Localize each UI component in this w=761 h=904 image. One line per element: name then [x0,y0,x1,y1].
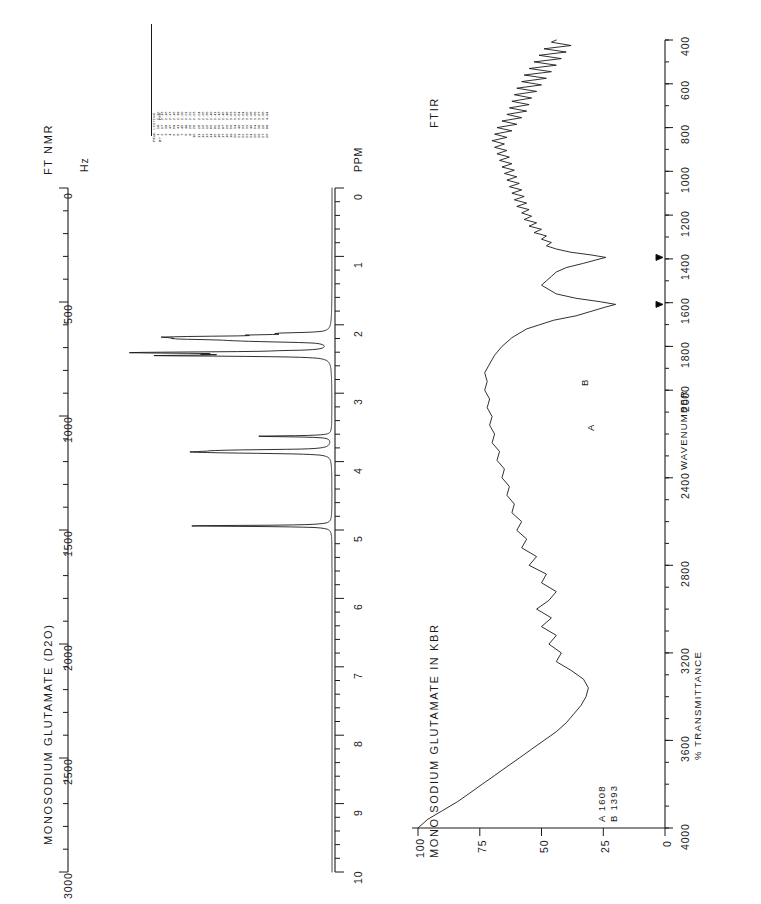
wavenumber-tick-3600: 3600 [679,735,691,762]
wavenumber-tick-400: 400 [679,36,691,56]
ftir-sample-title: MONO SODIUM GLUTAMATE IN KBR [428,624,440,858]
ppm-tick-0: 0 [352,193,364,200]
ppm-tick-6: 6 [352,604,364,611]
ftnmr-panel: FT NMR MONOSODIUM GLUTAMATE (D2O) Hz PPM… [0,0,370,904]
ppm-tick-3: 3 [352,399,364,406]
transmittance-tick-75: 75 [476,840,488,853]
marker-b-glyph: B [579,378,590,386]
ftnmr-trace [129,188,332,872]
ppm-tick-9: 9 [352,809,364,816]
ppm-tick-7: 7 [352,672,364,679]
wavenumber-tick-2400: 2400 [679,473,691,500]
peak-listing-row: 12 15 2.25 [201,111,205,138]
ppm-tick-2: 2 [352,330,364,337]
marker-legend-b: B 1393 [608,785,619,822]
spectra-page: FT NMR MONOSODIUM GLUTAMATE (D2O) Hz PPM… [0,0,761,904]
hz-tick-500: 500 [62,304,74,324]
ppm-tick-8: 8 [352,741,364,748]
wavenumber-tick-1800: 1800 [679,341,691,368]
ppm-axis [335,188,344,872]
wavenumber-tick-4000: 4000 [679,823,691,850]
transmittance-tick-25: 25 [599,840,611,853]
transmittance-tick-0: 0 [661,841,673,848]
ftir-technique-label: FTIR [428,97,440,128]
wavenumber-tick-2800: 2800 [679,560,691,587]
peak-listing-row: 10 26 2.23 [192,111,196,138]
ppm-tick-10: 10 [352,871,364,884]
wavenumber-axis [665,40,673,828]
hz-tick-2500: 2500 [62,758,74,785]
peak-listing-row: 11 26 2.24 [197,111,201,138]
transmittance-axis-label: % TRANSMITTANCE [692,651,703,760]
marker-pointers [656,254,663,307]
hz-tick-2000: 2000 [62,644,74,671]
hz-tick-1000: 1000 [62,416,74,443]
wavenumber-tick-1000: 1000 [679,166,691,193]
peak-listing-rule [151,24,152,136]
wavenumber-tick-1200: 1200 [679,210,691,237]
transmittance-tick-100: 100 [414,838,426,858]
ftnmr-sample-title: MONOSODIUM GLUTAMATE (D2O) [42,624,54,845]
hz-axis-label: Hz [78,158,90,172]
ppm-tick-4: 4 [352,467,364,474]
transmittance-tick-50: 50 [538,840,550,853]
hz-tick-1500: 1500 [62,530,74,557]
peak-listing-table: PEAK LISTING HT PPM 1 19 2.12 2 17 2.13 … [146,16,208,144]
ppm-tick-1: 1 [352,262,364,269]
wavenumber-tick-600: 600 [679,80,691,100]
wavenumber-tick-1400: 1400 [679,254,691,281]
peak-listing-row: 28 99 4.94 [265,111,269,138]
ppm-tick-5: 5 [352,535,364,542]
marker-a-glyph: A [585,423,596,431]
transmittance-axis [412,828,665,836]
ppm-axis-label: PPM [352,147,364,172]
wavenumber-tick-800: 800 [679,124,691,144]
ftir-trace [418,40,616,828]
wavenumber-tick-3200: 3200 [679,648,691,675]
hz-tick-3000: 3000 [62,872,74,899]
marker-legend-a: A 1608 [596,785,607,822]
wavenumber-tick-2000: 2000 [679,385,691,412]
ftir-panel: FTIR MONO SODIUM GLUTAMATE IN KBR WAVENU… [380,0,761,904]
ftnmr-technique-label: FT NMR [42,124,54,175]
hz-tick-0: 0 [62,193,74,200]
wavenumber-tick-1600: 1600 [679,298,691,325]
